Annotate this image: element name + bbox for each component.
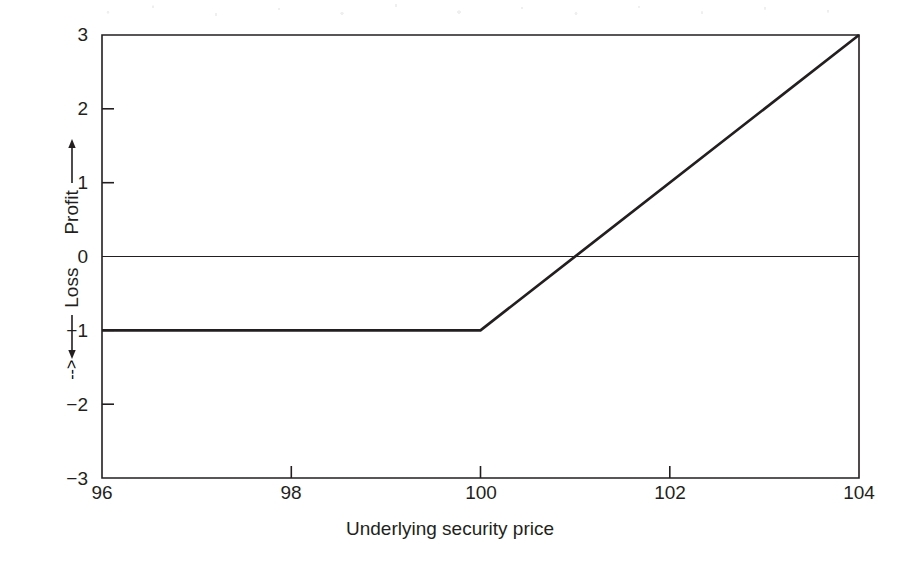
figure-page: 3 2 1 0 −1 −2 −3 96 98 100 102 104 Under… xyxy=(0,0,900,567)
x-axis-title: Underlying security price xyxy=(0,518,900,540)
y-axis-profit-group: Profit xyxy=(61,138,83,260)
x-tick-label-96: 96 xyxy=(76,482,128,504)
arrow-down-icon xyxy=(65,314,79,360)
y-axis-loss-group: Loss xyxy=(61,261,83,360)
y-axis-loss-label: Loss xyxy=(61,261,83,314)
payoff-line xyxy=(102,35,859,330)
y-axis-title: --> Loss Profit xyxy=(57,89,87,429)
x-tick-label-104: 104 xyxy=(830,482,888,504)
x-tick-label-100: 100 xyxy=(452,482,510,504)
y-axis-profit-label: Profit xyxy=(61,184,83,234)
y-tick-label-3: 3 xyxy=(54,24,88,46)
x-tick-marks xyxy=(291,466,670,478)
arrow-up-icon xyxy=(65,138,79,184)
x-tick-label-98: 98 xyxy=(265,482,317,504)
x-tick-label-102: 102 xyxy=(641,482,699,504)
payoff-chart xyxy=(0,0,900,567)
